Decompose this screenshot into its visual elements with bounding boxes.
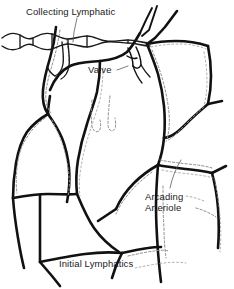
arteriole-bottom-left-stub <box>40 262 60 286</box>
arteriole-far-left-lower <box>13 198 24 268</box>
arteriole-branch-top-right-c <box>147 11 177 44</box>
arcading-arteriole-network <box>13 6 226 286</box>
lymphatic-blind-sprout-b <box>108 96 116 131</box>
label-collecting-lymphatic: Collecting Lymphatic <box>26 6 115 17</box>
arteriole-lowerright-spur <box>98 209 116 221</box>
valve-cusp-right <box>136 47 141 65</box>
arteriole-top-right-arc <box>147 41 208 46</box>
arteriole-right-mid-arc <box>164 104 208 138</box>
lymphatic-right-edge-sprout <box>196 208 216 217</box>
lymphatic-far-right-companion <box>204 52 207 106</box>
lymphatic-central-companion <box>79 68 103 196</box>
label-arcading-arteriole-line2: Arteriole <box>145 202 183 213</box>
valve-outflow <box>141 65 150 77</box>
arteriole-far-right-upper <box>208 46 211 104</box>
arteriole-right-to-lower-node <box>158 138 164 165</box>
leader-arcading-arteriole <box>170 160 181 188</box>
label-valve: Valve <box>88 64 112 75</box>
lymphatic-right-edge-sprout-b <box>186 196 206 202</box>
arteriole-central-strand <box>76 61 100 194</box>
arteriole-bottom-right-arc <box>122 247 161 253</box>
arteriole-lower-diagonal <box>77 194 119 252</box>
arteriole-right-upper-strand <box>147 44 165 138</box>
arteriole-center-left-strand <box>48 114 69 202</box>
network-drawing <box>0 0 234 289</box>
arteriole-left-outer <box>13 114 48 198</box>
lymphatic-top-right-arc-companion <box>151 44 206 49</box>
label-arcading-arteriole-line1: Arcading <box>145 191 183 202</box>
arteriole-lower-center-strand <box>156 165 161 282</box>
label-arcading-arteriole: Arcading Arteriole <box>145 191 183 213</box>
arteriole-branch-top-right-b <box>142 6 157 36</box>
arteriole-right-margin-stub-b <box>212 166 226 173</box>
leader-valve <box>117 66 128 70</box>
arteriole-right-margin-stub-a <box>208 101 222 104</box>
label-initial-lymphatics: Initial Lymphatics <box>59 258 133 269</box>
valve-structure <box>127 47 150 83</box>
lymphatic-network-figure: Collecting Lymphatic Valve Arcading Arte… <box>0 0 234 289</box>
